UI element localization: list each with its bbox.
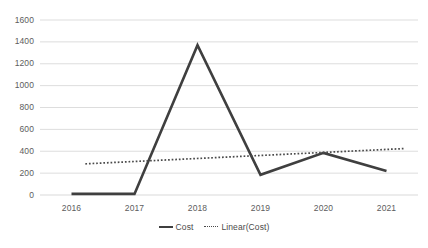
y-tick-label: 0 — [4, 190, 34, 200]
chart-legend: CostLinear(Cost) — [0, 222, 428, 232]
x-tick-label: 2019 — [241, 203, 281, 213]
y-tick-label: 1200 — [4, 58, 34, 68]
x-tick-label: 2021 — [367, 203, 407, 213]
y-tick-label: 1600 — [4, 15, 34, 25]
legend-item[interactable]: Linear(Cost) — [204, 222, 269, 232]
x-tick-label: 2020 — [304, 203, 344, 213]
legend-solid-line-icon — [159, 224, 173, 231]
legend-item[interactable]: Cost — [159, 222, 194, 232]
line-chart: 02004006008001000120014001600 2016201720… — [0, 0, 428, 248]
y-tick-label: 200 — [4, 168, 34, 178]
y-tick-label: 1000 — [4, 80, 34, 90]
y-tick-label: 1400 — [4, 36, 34, 46]
legend-item-label: Cost — [176, 222, 194, 232]
x-tick-label: 2018 — [178, 203, 218, 213]
series-line-cost — [72, 45, 387, 194]
y-tick-label: 800 — [4, 102, 34, 112]
y-tick-label: 400 — [4, 146, 34, 156]
legend-item-label: Linear(Cost) — [221, 222, 269, 232]
legend-dotted-line-icon — [204, 224, 218, 231]
x-tick-label: 2017 — [115, 203, 155, 213]
x-tick-label: 2016 — [52, 203, 92, 213]
y-tick-label: 600 — [4, 124, 34, 134]
